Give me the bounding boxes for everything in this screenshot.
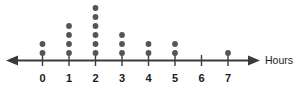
data-dot (119, 41, 125, 47)
dot-plot-canvas: 0 1 2 3 4 5 6 7 Hours (0, 0, 300, 89)
data-dot (93, 14, 99, 20)
data-dot (93, 41, 99, 47)
tick-label-7: 7 (225, 72, 231, 84)
axis-left-arrow-icon (6, 56, 18, 66)
tick-label-0: 0 (39, 72, 45, 84)
data-dot (66, 41, 72, 47)
dot-plot-figure: 0 1 2 3 4 5 6 7 Hours (0, 0, 300, 89)
dot-stack (93, 5, 99, 56)
data-dot (40, 50, 46, 56)
dot-stacks-group (40, 5, 231, 56)
dot-stack (66, 23, 72, 56)
data-dot (119, 50, 125, 56)
dot-stack (40, 41, 46, 56)
axis-group (6, 56, 260, 66)
data-dot (119, 32, 125, 38)
data-dot (93, 5, 99, 11)
axis-right-arrow-icon (248, 56, 260, 66)
tick-label-4: 4 (145, 72, 152, 84)
data-dot (93, 32, 99, 38)
data-dot (66, 50, 72, 56)
data-dot (146, 41, 152, 47)
dot-stack (146, 41, 152, 56)
dot-stack (225, 50, 231, 56)
tick-label-2: 2 (92, 72, 98, 84)
x-axis-title: Hours (265, 54, 293, 66)
data-dot (146, 50, 152, 56)
data-dot (172, 41, 178, 47)
dot-stack (172, 41, 178, 56)
tick-label-1: 1 (66, 72, 72, 84)
data-dot (66, 32, 72, 38)
data-dot (225, 50, 231, 56)
data-dot (66, 23, 72, 29)
data-dot (172, 50, 178, 56)
dot-stack (119, 32, 125, 56)
tick-label-3: 3 (119, 72, 125, 84)
tick-label-6: 6 (198, 72, 204, 84)
tick-labels-group: 0 1 2 3 4 5 6 7 (39, 72, 231, 84)
tick-label-5: 5 (172, 72, 178, 84)
data-dot (93, 23, 99, 29)
data-dot (40, 41, 46, 47)
data-dot (93, 50, 99, 56)
